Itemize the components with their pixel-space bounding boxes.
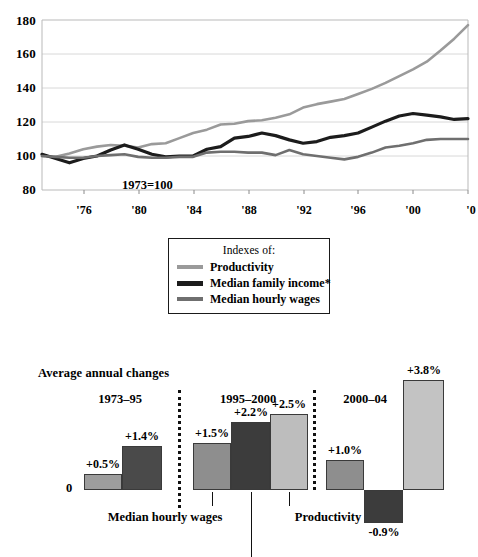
epi-wage-productivity-figure: 180 160 140 120 100 80 (0, 0, 478, 557)
bar-zero-label: 0 (66, 481, 72, 496)
line-chart: 180 160 140 120 100 80 (0, 0, 478, 220)
bar-1995-2000-productivity (270, 414, 308, 490)
legend-swatch-productivity (177, 265, 203, 269)
bar-1995-2000-income (231, 422, 270, 490)
bar-value-1995-2000-productivity: +2.5% (272, 397, 306, 412)
group-divider-2 (313, 390, 316, 490)
x-tick-92: '92 (296, 204, 311, 216)
legend-label-median-hourly-wages: Median hourly wages (210, 292, 320, 306)
legend-title: Indexes of: (175, 244, 323, 256)
callout-line-productivity (289, 492, 290, 506)
bar-2000-04-wages (326, 460, 364, 490)
bar-value-1995-2000-income: +2.2% (234, 405, 268, 420)
bar-value-1973-95-income: +1.4% (125, 429, 159, 444)
legend-item-productivity: Productivity (175, 259, 323, 275)
index-base-annotation: 1973=100 (122, 178, 173, 193)
callout-label-productivity: Productivity (295, 510, 361, 525)
chart-legend: Indexes of: Productivity Median family i… (168, 238, 330, 314)
bar-1973-95-wages (84, 474, 122, 490)
x-tick-84: '84 (186, 204, 201, 216)
x-tick-80: '80 (131, 204, 146, 216)
x-tick-04: '0 (466, 204, 475, 216)
x-tick-88: '88 (241, 204, 256, 216)
bar-group-label-1973-95: 1973–95 (98, 392, 142, 407)
bar-1973-95-income (122, 446, 162, 490)
line-chart-svg (0, 0, 478, 220)
bar-chart: Average annual changes 1973–95 1995–2000… (0, 350, 478, 557)
bar-value-2000-04-wages: +1.0% (328, 443, 362, 458)
bar-1995-2000-wages (193, 443, 231, 490)
bar-value-2000-04-income: -0.9% (369, 525, 400, 540)
bar-value-1973-95-wages: +0.5% (86, 457, 120, 472)
bar-2000-04-income (364, 490, 403, 523)
series-line (42, 25, 468, 157)
x-tick-96: '96 (350, 204, 365, 216)
bar-value-1995-2000-wages: +1.5% (195, 426, 229, 441)
legend-label-median-family-income: Median family income* (210, 276, 331, 290)
x-tick-00: '00 (405, 204, 420, 216)
bar-value-2000-04-productivity: +3.8% (407, 363, 441, 378)
legend-item-median-hourly-wages: Median hourly wages (175, 291, 323, 307)
bar-group-label-2000-04: 2000–04 (343, 392, 387, 407)
bar-2000-04-productivity (403, 380, 444, 490)
legend-swatch-median-family-income (177, 281, 203, 286)
legend-item-median-family-income: Median family income* (175, 275, 323, 291)
x-tick-76: '76 (76, 204, 91, 216)
legend-label-productivity: Productivity (210, 260, 274, 274)
callout-line-wages (212, 492, 213, 506)
series-layer (42, 25, 468, 163)
bar-chart-heading: Average annual changes (38, 366, 169, 381)
legend-swatch-median-hourly-wages (177, 297, 203, 301)
grid-lines (42, 20, 468, 190)
callout-label-wages: Median hourly wages (108, 510, 223, 525)
group-divider-1 (178, 390, 181, 508)
callout-line-income (251, 492, 252, 557)
